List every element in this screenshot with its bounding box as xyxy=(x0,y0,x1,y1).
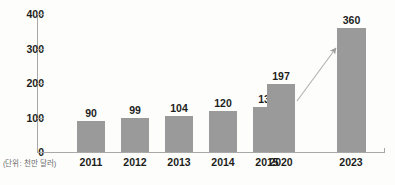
bar-2014 xyxy=(209,111,237,152)
bar-2023 xyxy=(337,28,366,152)
bar-value-2013: 104 xyxy=(165,103,193,114)
unit-note: (단위: 천만 달러) xyxy=(3,159,56,168)
x-tick-label-2014: 2014 xyxy=(205,157,241,168)
bar-value-2011: 90 xyxy=(77,108,105,119)
bar-value-2012: 99 xyxy=(121,105,149,116)
bar-value-2023: 360 xyxy=(337,15,366,26)
bar-chart: 400 300 200 100 0 90 2011 99 2012 104 20… xyxy=(0,0,395,185)
bar-2011 xyxy=(77,121,105,152)
x-tick-label-2020: 2020 xyxy=(263,157,299,168)
x-tick-label-2011: 2011 xyxy=(73,157,109,168)
x-tick-label-2012: 2012 xyxy=(117,157,153,168)
x-tick-label-2013: 2013 xyxy=(161,157,197,168)
x-tick-label-2023: 2023 xyxy=(333,157,369,168)
bar-2020 xyxy=(267,84,295,152)
plot-area: 90 2011 99 2012 104 2013 120 2014 130 20… xyxy=(0,0,395,185)
bar-2013 xyxy=(165,116,193,152)
bar-value-2020: 197 xyxy=(267,71,295,82)
bar-2012 xyxy=(121,118,149,152)
bar-value-2014: 120 xyxy=(209,98,237,109)
